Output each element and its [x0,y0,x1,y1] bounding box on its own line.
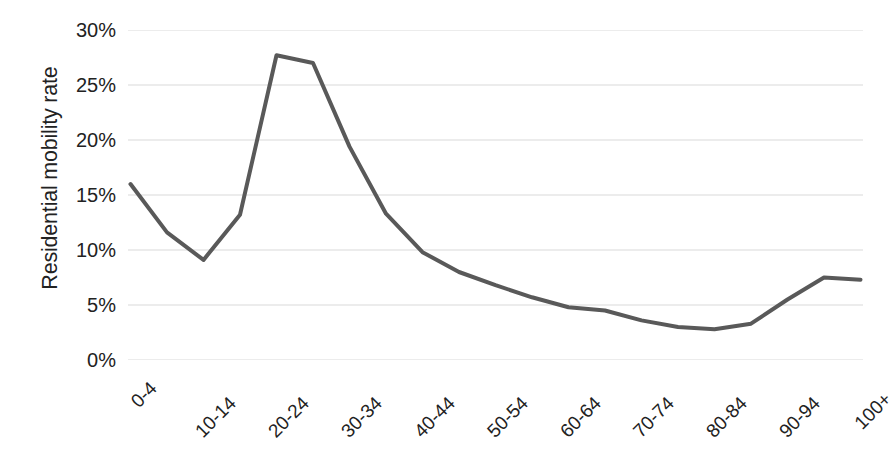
plot-svg [128,30,863,360]
x-tick-label: 80-84 [701,392,751,442]
y-tick-label: 25% [52,74,116,97]
x-tick-label: 70-74 [628,392,678,442]
x-axis-tick-labels: 0-410-1420-2430-3440-4450-5460-6470-7480… [0,358,878,451]
x-tick-label: 100+ [850,388,893,434]
y-tick-label: 30% [52,19,116,42]
y-tick-label: 15% [52,184,116,207]
y-tick-label: 5% [52,294,116,317]
series-line [131,55,861,329]
x-tick-label: 30-34 [336,392,386,442]
x-tick-label: 0-4 [126,377,161,412]
x-tick-label: 20-24 [263,392,313,442]
x-tick-label: 40-44 [409,392,459,442]
x-tick-label: 50-54 [482,392,532,442]
gridlines [128,30,863,360]
x-tick-label: 10-14 [190,392,240,442]
x-tick-label: 90-94 [774,392,824,442]
y-tick-label: 20% [52,129,116,152]
y-tick-label: 10% [52,239,116,262]
plot-area [128,30,863,360]
x-tick-label: 60-64 [555,392,605,442]
